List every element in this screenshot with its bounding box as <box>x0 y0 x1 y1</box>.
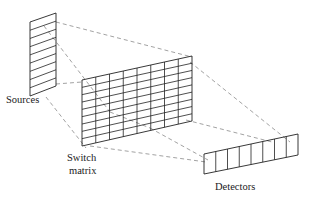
switch-matrix-label-line1: Switch <box>67 152 96 164</box>
switch-matrix <box>82 56 192 146</box>
diagram-svg <box>0 0 310 207</box>
diagram-canvas: Sources Switch matrix Detectors <box>0 0 310 207</box>
switch-matrix-label-line2: matrix <box>69 165 96 177</box>
detectors-panel <box>204 134 298 174</box>
sources-label: Sources <box>6 94 39 106</box>
projection-lines <box>44 22 290 162</box>
sources-panel <box>30 13 56 96</box>
detectors-label: Detectors <box>215 181 255 193</box>
